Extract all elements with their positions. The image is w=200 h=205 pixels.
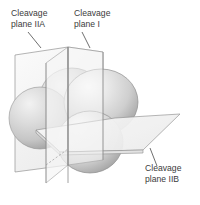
- plane-iia-front-overlay: [46, 47, 68, 183]
- figure-root: Cleavage plane IIA Cleavage plane I Clea…: [0, 0, 200, 205]
- label-i-line2: plane I: [74, 19, 100, 29]
- label-cleavage-plane-iia: Cleavage plane IIA: [11, 8, 48, 29]
- label-iia-line2: plane IIA: [11, 19, 45, 29]
- label-iia-line1: Cleavage: [11, 8, 48, 18]
- plane-i-front-overlay: [68, 47, 103, 165]
- plane-i-front-face: [68, 47, 103, 165]
- cleavage-planes-svg: Cleavage plane IIA Cleavage plane I Clea…: [0, 0, 200, 205]
- label-i-line1: Cleavage: [74, 8, 111, 18]
- label-iib-line1: Cleavage: [145, 163, 182, 173]
- label-cleavage-plane-iib: Cleavage plane IIB: [145, 163, 182, 184]
- label-iib-line2: plane IIB: [145, 174, 179, 184]
